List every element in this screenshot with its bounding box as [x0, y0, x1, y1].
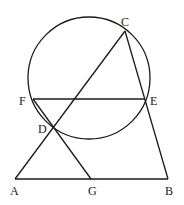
label-G: G — [88, 184, 97, 198]
label-A: A — [10, 184, 19, 198]
label-B: B — [165, 184, 173, 198]
segment-AC — [15, 31, 125, 179]
label-F: F — [19, 94, 26, 108]
geometry-diagram: C F E D A G B — [0, 0, 184, 205]
label-C: C — [121, 15, 129, 29]
label-D: D — [38, 122, 47, 136]
label-E: E — [150, 94, 157, 108]
segment-CB — [125, 31, 168, 179]
circle — [28, 17, 150, 139]
